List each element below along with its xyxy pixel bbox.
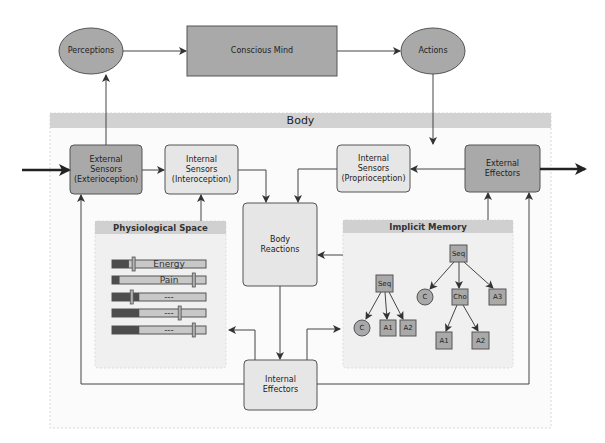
external-effectors-node [465,145,540,192]
body-reactions-node [243,203,317,286]
physiological-bar-marker[interactable] [192,323,195,337]
perceptions-node [59,28,123,74]
physiological-bar-marker[interactable] [178,306,181,320]
physiological-bar-marker[interactable] [192,273,195,287]
physiological-bar-fill [112,326,139,334]
cognitive-architecture-diagram [0,0,605,443]
actions-node [401,28,465,74]
internal-effectors-node [244,360,317,410]
internal-sensors-interoception-node [165,145,238,194]
physiological-bar-fill [112,293,139,301]
physiological-bar-fill [112,260,129,268]
external-sensors-node [70,145,142,194]
physiological-bar-fill [112,276,120,284]
internal-sensors-proprioception-node [337,145,410,192]
physiological-bar-marker[interactable] [132,257,135,271]
physiological-bar-fill [112,309,139,317]
conscious-mind-node [187,26,337,76]
physiological-bar-marker[interactable] [130,290,133,304]
